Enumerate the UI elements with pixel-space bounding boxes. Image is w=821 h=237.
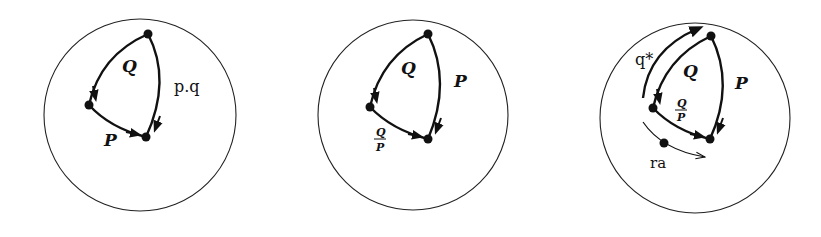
- arrow-icon: [156, 116, 160, 127]
- fraction-q-over-p: Q P: [374, 126, 386, 154]
- panel-2: Q P Q P: [318, 20, 508, 210]
- arrow-icon: [719, 118, 723, 129]
- arrow-icon: [126, 132, 136, 134]
- fraction-q-over-p: Q P: [675, 97, 687, 124]
- sphere-outline: [318, 20, 508, 210]
- vertex: [85, 101, 94, 110]
- edge-p: [89, 105, 146, 137]
- svg-text:Q: Q: [677, 97, 687, 110]
- arrow-icon: [690, 134, 700, 136]
- diagram-canvas: Q p.q P Q P Q P: [0, 0, 821, 237]
- label-q: Q: [122, 56, 137, 76]
- moving-point: [660, 139, 669, 148]
- edge-q: [89, 34, 148, 105]
- vertex: [706, 135, 715, 144]
- ra-arrow: [643, 122, 705, 157]
- label-p: P: [453, 71, 468, 91]
- label-q: Q: [401, 58, 416, 78]
- panel-1: Q p.q P: [44, 19, 236, 211]
- vertex: [424, 135, 433, 144]
- svg-text:P: P: [375, 141, 385, 154]
- vertex: [707, 32, 716, 41]
- svg-text:Q: Q: [376, 126, 386, 139]
- vertex: [424, 30, 433, 39]
- label-q-star: q*: [635, 50, 653, 69]
- vertex: [649, 104, 658, 113]
- arrow-icon: [408, 134, 418, 136]
- label-q: Q: [683, 61, 698, 81]
- label-pq: p.q: [174, 77, 200, 96]
- vertex: [142, 133, 151, 142]
- vertex: [144, 30, 153, 39]
- sphere-outline: [44, 19, 236, 211]
- label-p: P: [103, 130, 118, 150]
- label-p: P: [734, 73, 749, 93]
- vertex: [366, 103, 375, 112]
- arrow-icon: [437, 118, 441, 129]
- sphere-outline: [600, 23, 790, 213]
- svg-text:P: P: [676, 111, 686, 124]
- edge-q: [370, 34, 428, 107]
- label-ra: ra: [650, 154, 666, 172]
- panel-3: q* Q P Q P ra: [600, 23, 790, 213]
